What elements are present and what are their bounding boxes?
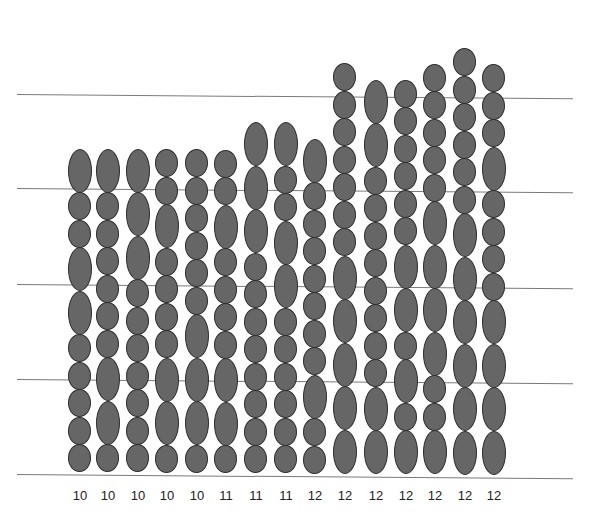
short-oval	[185, 259, 208, 287]
column-label: 10	[65, 488, 95, 503]
tall-oval	[333, 343, 357, 387]
short-oval	[155, 177, 178, 205]
tall-oval	[68, 291, 92, 335]
tall-oval	[274, 264, 298, 308]
tall-oval	[423, 332, 447, 376]
short-oval	[244, 445, 267, 473]
short-oval	[394, 190, 417, 218]
short-oval	[185, 445, 208, 473]
column-label: 12	[300, 488, 330, 503]
tall-oval	[214, 205, 238, 249]
short-oval	[303, 210, 326, 238]
tall-oval	[364, 387, 388, 431]
short-oval	[394, 217, 417, 245]
tall-oval	[423, 430, 447, 474]
tall-oval	[333, 299, 357, 343]
tall-oval	[394, 430, 418, 474]
tall-oval	[333, 256, 357, 300]
short-oval	[423, 375, 446, 403]
column-label: 10	[93, 488, 123, 503]
tall-oval	[453, 300, 477, 344]
short-oval	[214, 331, 237, 359]
short-oval	[274, 166, 297, 194]
short-oval	[214, 276, 237, 304]
short-oval	[333, 91, 356, 119]
short-oval	[333, 146, 356, 174]
tall-oval	[126, 192, 150, 236]
short-oval	[274, 363, 297, 391]
short-oval	[303, 237, 326, 265]
tall-oval	[214, 402, 238, 446]
short-oval	[214, 177, 237, 205]
tall-oval	[394, 359, 418, 403]
short-oval	[364, 167, 387, 195]
short-oval	[364, 277, 387, 305]
short-oval	[423, 119, 446, 147]
short-oval	[423, 91, 446, 119]
column-label: 10	[182, 488, 212, 503]
column-label: 11	[271, 488, 301, 503]
short-oval	[482, 218, 505, 246]
short-oval	[482, 190, 505, 218]
column-label: 11	[241, 488, 271, 503]
tall-oval	[364, 123, 388, 167]
tall-oval	[364, 80, 388, 124]
short-oval	[333, 228, 356, 256]
tall-oval	[155, 204, 179, 248]
column-label: 12	[391, 488, 421, 503]
short-oval	[96, 330, 119, 358]
short-oval	[68, 444, 91, 472]
short-oval	[274, 193, 297, 221]
short-oval	[303, 265, 326, 293]
short-oval	[303, 320, 326, 348]
tall-oval	[244, 122, 268, 166]
short-oval	[303, 446, 326, 474]
short-oval	[244, 363, 267, 391]
column-label: 12	[450, 488, 480, 503]
short-oval	[214, 150, 237, 178]
short-oval	[364, 249, 387, 277]
short-oval	[482, 119, 505, 147]
short-oval	[185, 149, 208, 177]
short-oval	[274, 445, 297, 473]
short-oval	[126, 362, 149, 390]
oval-column	[391, 0, 421, 532]
column-label: 12	[420, 488, 450, 503]
short-oval	[96, 275, 119, 303]
short-oval	[68, 192, 91, 220]
tall-oval	[274, 122, 298, 166]
short-oval	[364, 332, 387, 360]
tall-oval	[453, 213, 477, 257]
tall-oval	[482, 431, 506, 475]
tall-oval	[274, 221, 298, 265]
short-oval	[155, 445, 178, 473]
oval-column	[211, 0, 241, 532]
oval-stack-figure: 101010101011111112121212121212	[0, 0, 592, 532]
short-oval	[333, 63, 356, 91]
short-oval	[333, 118, 356, 146]
short-oval	[96, 220, 119, 248]
short-oval	[96, 192, 119, 220]
tall-oval	[244, 209, 268, 253]
short-oval	[68, 220, 91, 248]
tall-oval	[126, 149, 150, 193]
short-oval	[423, 146, 446, 174]
short-oval	[453, 76, 476, 104]
short-oval	[185, 177, 208, 205]
tall-oval	[303, 139, 327, 183]
short-oval	[364, 222, 387, 250]
tall-oval	[126, 236, 150, 280]
short-oval	[394, 107, 417, 135]
short-oval	[155, 275, 178, 303]
tall-oval	[482, 300, 506, 344]
tall-oval	[68, 247, 92, 291]
short-oval	[364, 304, 387, 332]
short-oval	[96, 444, 119, 472]
oval-column	[330, 0, 360, 532]
tall-oval	[423, 201, 447, 245]
short-oval	[68, 417, 91, 445]
oval-column	[361, 0, 391, 532]
tall-oval	[96, 357, 120, 401]
short-oval	[453, 103, 476, 131]
oval-column	[123, 0, 153, 532]
